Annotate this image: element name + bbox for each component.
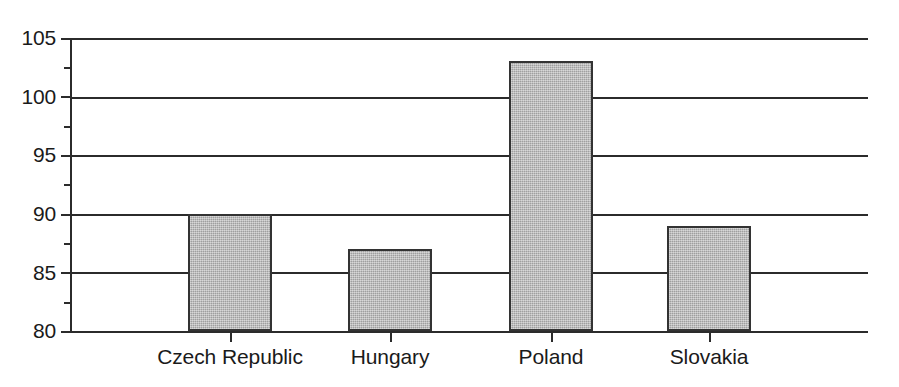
y-tick-label: 95 (33, 143, 56, 167)
y-axis-major-tick (61, 272, 70, 274)
y-tick-label: 90 (33, 202, 56, 226)
gridline (70, 38, 868, 40)
bar-slovakia (667, 226, 751, 332)
x-axis-tick (230, 331, 232, 342)
y-axis-major-tick (61, 96, 70, 98)
bar-czech-republic (188, 214, 272, 331)
x-axis-tick (709, 331, 711, 342)
y-tick-label: 85 (33, 261, 56, 285)
gridline (70, 97, 868, 99)
y-axis-major-tick (61, 214, 70, 216)
y-tick-label: 80 (33, 319, 56, 343)
bar-chart: 105 100 95 90 85 80 Czech Republic Hunga… (0, 0, 899, 387)
bar-poland (509, 61, 593, 331)
y-axis-major-tick (61, 155, 70, 157)
x-tick-label-poland: Poland (519, 345, 584, 369)
x-axis-spine (70, 331, 868, 333)
x-axis-tick (551, 331, 553, 342)
y-axis-labels: 105 100 95 90 85 80 (0, 0, 56, 387)
x-tick-label-slovakia: Slovakia (670, 345, 749, 369)
bar-hungary (348, 249, 432, 331)
x-tick-label-czech-republic: Czech Republic (157, 345, 303, 369)
x-tick-label-hungary: Hungary (351, 345, 430, 369)
plot-area (70, 38, 868, 331)
y-axis-major-tick (61, 38, 70, 40)
y-tick-label: 105 (22, 26, 56, 50)
gridline (70, 155, 868, 157)
y-tick-label: 100 (22, 85, 56, 109)
y-axis-major-tick (61, 331, 70, 333)
x-axis-tick (390, 331, 392, 342)
